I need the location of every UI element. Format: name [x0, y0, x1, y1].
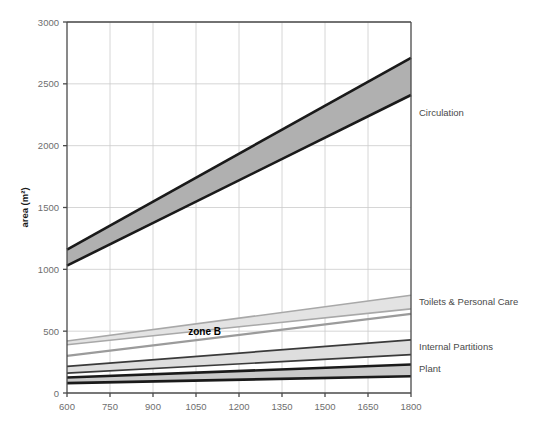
annotations: zone B: [185, 324, 227, 337]
y-tick-label: 2000: [38, 140, 59, 151]
series-label-internal-partitions: Internal Partitions: [419, 341, 493, 352]
area-chart: 0500100015002000250030006007509001050120…: [0, 0, 547, 435]
y-tick-label: 1000: [38, 264, 59, 275]
y-tick-label: 3000: [38, 17, 59, 28]
x-tick-label: 1800: [400, 401, 421, 412]
y-tick-label: 1500: [38, 202, 59, 213]
x-tick-label: 900: [145, 401, 161, 412]
x-tick-label: 1500: [314, 401, 335, 412]
x-tick-label: 750: [102, 401, 118, 412]
series-label-toilets-personal-care: Toilets & Personal Care: [419, 296, 518, 307]
y-tick-label: 2500: [38, 78, 59, 89]
series-label-plant: Plant: [419, 363, 441, 374]
y-axis-title: area (m²): [19, 187, 30, 227]
chart-container: 0500100015002000250030006007509001050120…: [0, 0, 547, 435]
x-tick-label: 1200: [228, 401, 249, 412]
x-tick-label: 1050: [185, 401, 206, 412]
axis-titles: area (m²): [19, 187, 30, 227]
y-tick-label: 0: [54, 388, 59, 399]
x-tick-label: 1350: [271, 401, 292, 412]
annotation-zone-b: zone B: [188, 326, 221, 337]
x-tick-label: 600: [59, 401, 75, 412]
series-label-circulation: Circulation: [419, 107, 464, 118]
y-tick-label: 500: [43, 326, 59, 337]
x-tick-label: 1650: [357, 401, 378, 412]
